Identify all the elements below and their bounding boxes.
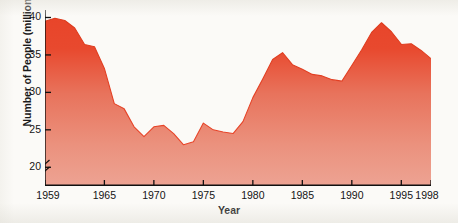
x-tick-label: 1995 [390,189,413,201]
area-series [45,18,431,186]
area-chart-svg [45,10,431,186]
x-tick-label: 1985 [291,189,314,201]
x-tick-label: 1965 [93,189,116,201]
y-tick-label: 20 [29,161,41,172]
x-tick-label: 1980 [241,189,264,201]
y-tick-label: 35 [29,49,41,60]
x-tick-label: 1970 [142,189,165,201]
x-tick-label: 1998 [415,189,438,201]
plot-area [45,10,431,186]
chart-figure: Number of People (millions) 2025303540 [0,0,458,223]
x-axis-title: Year [0,204,458,216]
y-tick-label: 25 [29,124,41,135]
y-tick-label: 30 [29,86,41,97]
x-tick-label: 1975 [192,189,215,201]
y-tick-label: 40 [29,11,41,22]
x-tick-label: 1959 [36,189,59,201]
x-tick-label: 1990 [340,189,363,201]
